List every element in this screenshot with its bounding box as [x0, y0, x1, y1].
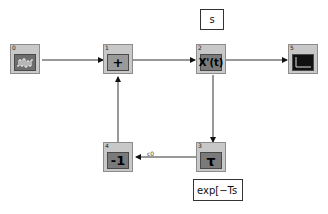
connection-wires	[0, 0, 328, 214]
gain-value: -1	[107, 152, 129, 169]
scope-display-icon	[292, 54, 314, 71]
block-index: 0	[12, 44, 16, 52]
derivative-block[interactable]: 2 X'(t)	[196, 44, 226, 74]
feedback-signal-label: c0	[147, 150, 154, 157]
scope-block[interactable]: 5	[288, 44, 318, 74]
delay-annotation: exp[−Ts	[193, 179, 243, 201]
derivative-icon: X'(t)	[200, 54, 222, 71]
signal-generator-block[interactable]: 0	[10, 44, 40, 74]
block-index: 2	[198, 44, 202, 52]
derivative-annotation: s	[200, 9, 224, 30]
block-index: 1	[105, 44, 109, 52]
block-index: 5	[290, 44, 294, 52]
block-index: 4	[105, 142, 109, 150]
time-delay-block[interactable]: 3 τ	[196, 142, 226, 172]
square-wave-icon	[14, 54, 36, 71]
sum-block[interactable]: 1 +	[103, 44, 133, 74]
plus-icon: +	[107, 54, 129, 71]
block-index: 3	[198, 142, 202, 150]
tau-icon: τ	[200, 152, 222, 169]
gain-block[interactable]: 4 -1	[103, 142, 133, 172]
